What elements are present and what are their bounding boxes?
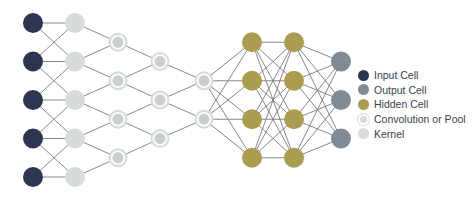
- legend-label: Output Cell: [374, 84, 427, 96]
- conv-cell-node: [151, 129, 170, 148]
- hidden-cell-node: [242, 32, 262, 52]
- input-cell-swatch-icon: [358, 70, 369, 81]
- legend-label: Convolution or Pool: [374, 113, 466, 125]
- hidden-cell-node: [284, 32, 304, 52]
- input-cell-node: [23, 167, 43, 187]
- legend-label: Input Cell: [374, 69, 418, 81]
- kernel-cell-node: [65, 167, 85, 187]
- legend-item-kernel: Kernel: [358, 126, 466, 141]
- kernel-cell-node: [65, 129, 85, 149]
- kernel-cell-node: [65, 90, 85, 110]
- hidden-cell-node: [242, 148, 262, 168]
- conv-cell-node: [109, 148, 128, 167]
- nodes: [23, 13, 351, 187]
- output-cell-node: [331, 129, 351, 149]
- input-cell-node: [23, 90, 43, 110]
- input-cell-node: [23, 13, 43, 33]
- legend-item-hidden: Hidden Cell: [358, 97, 466, 112]
- conv-cell-swatch-icon: [358, 114, 369, 125]
- conv-cell-node: [109, 33, 128, 52]
- conv-cell-node: [109, 110, 128, 129]
- output-cell-node: [331, 52, 351, 72]
- output-cell-node: [331, 90, 351, 110]
- hidden-cell-node: [284, 71, 304, 91]
- legend-item-conv: Convolution or Pool: [358, 112, 466, 127]
- hidden-cell-node: [242, 109, 262, 129]
- legend-item-output: Output Cell: [358, 83, 466, 98]
- legend-label: Hidden Cell: [374, 98, 428, 110]
- kernel-cell-swatch-icon: [358, 128, 369, 139]
- hidden-cell-node: [242, 71, 262, 91]
- hidden-cell-node: [284, 148, 304, 168]
- legend-item-input: Input Cell: [358, 68, 466, 83]
- input-cell-node: [23, 129, 43, 149]
- input-cell-node: [23, 52, 43, 72]
- kernel-cell-node: [65, 52, 85, 72]
- conv-cell-node: [195, 71, 214, 90]
- legend-label: Kernel: [374, 128, 404, 140]
- kernel-cell-node: [65, 13, 85, 33]
- legend: Input Cell Output Cell Hidden Cell Convo…: [358, 68, 466, 141]
- hidden-cell-swatch-icon: [358, 99, 369, 110]
- hidden-cell-node: [284, 109, 304, 129]
- conv-cell-node: [195, 110, 214, 129]
- conv-cell-node: [109, 71, 128, 90]
- output-cell-swatch-icon: [358, 84, 369, 95]
- conv-cell-node: [151, 91, 170, 110]
- conv-cell-node: [151, 52, 170, 71]
